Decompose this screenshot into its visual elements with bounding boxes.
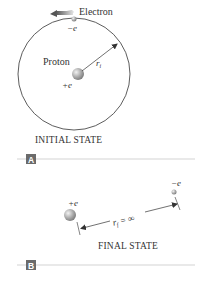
- proton-charge: +e: [62, 80, 72, 90]
- radius-subscript: i: [100, 63, 102, 69]
- final-proton-charge: +e: [68, 198, 78, 208]
- badge-b-label: B: [28, 261, 34, 271]
- divider-b: B: [17, 260, 195, 271]
- tick-right: [175, 197, 180, 210]
- proton-label: Proton: [43, 56, 70, 67]
- diagram-canvas: Electron −e Proton +e ri INITIAL STATE A…: [0, 0, 201, 281]
- distance-label: rf = ∞: [112, 213, 136, 229]
- tick-left: [77, 222, 80, 235]
- left-arrow-icon: [50, 10, 74, 17]
- panel-b-final-state: +e −e rf = ∞ FINAL STATE: [64, 178, 181, 251]
- electron-charge: −e: [67, 23, 77, 33]
- distance-line-right: [145, 204, 177, 212]
- badge-a-label: A: [28, 155, 34, 165]
- final-state-caption: FINAL STATE: [98, 241, 158, 251]
- electron-sphere-icon: [72, 17, 77, 22]
- radius-label: ri: [96, 58, 102, 69]
- electron-label: Electron: [79, 6, 113, 17]
- initial-state-caption: INITIAL STATE: [35, 135, 102, 145]
- divider-a: A: [17, 154, 195, 165]
- proton-sphere-icon: [72, 68, 84, 80]
- panel-a-initial-state: Electron −e Proton +e ri INITIAL STATE: [18, 6, 130, 145]
- distance-line-left: [81, 221, 110, 229]
- distance-value: = ∞: [117, 213, 136, 227]
- final-electron-sphere-icon: [172, 190, 177, 195]
- final-electron-charge: −e: [171, 178, 181, 188]
- final-proton-sphere-icon: [64, 209, 76, 221]
